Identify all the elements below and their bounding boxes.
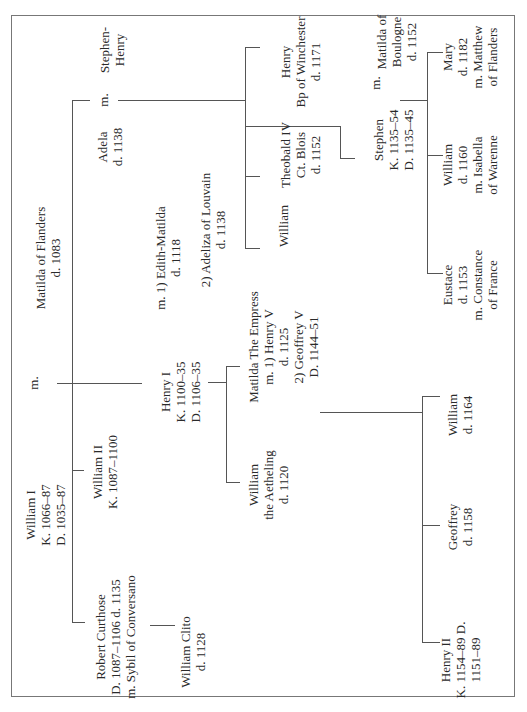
person-detail: d. 1138 [110, 128, 125, 167]
person-name: Geoffrey [445, 504, 460, 551]
person-name: Henry [278, 17, 293, 108]
person-william-son-of-matilda: William d. 1164 [445, 394, 475, 436]
person-name: Henry II [438, 622, 453, 699]
adela-marriage-line [118, 100, 245, 101]
person-detail: d. 1083 [48, 207, 63, 310]
person-name: Matilda of Flanders [33, 207, 48, 310]
stephen-children-line [427, 52, 428, 274]
person-name: Eustace [440, 250, 455, 321]
person-detail: D. 1144–51 [306, 291, 321, 403]
person-william-the-aetheling: William the Aetheling d. 1120 [246, 450, 291, 520]
person-name: Matilda of [374, 15, 389, 70]
person-detail: D. 1035–87 [53, 484, 68, 545]
stephen-connector-v [340, 126, 341, 158]
person-william-ii: William II K. 1087–1100 [90, 435, 120, 509]
person-detail: d. 1171 [308, 17, 323, 108]
person-detail: K. 1066–87 [38, 484, 53, 545]
person-detail: d. 1120 [276, 450, 291, 520]
person-name: William II [90, 435, 105, 509]
person-detail: Ct. Blois [293, 122, 308, 188]
william-i-marriage-line [57, 383, 142, 384]
person-detail: m. Matthew [470, 26, 485, 89]
marriage-label-stephen: m. [368, 76, 383, 89]
branch-robert [72, 622, 85, 623]
person-adeliza-of-louvain: 2) Adeliza of Louvain d. 1138 [198, 173, 228, 287]
adela-children-line [245, 47, 246, 249]
robert-clito-line [150, 625, 175, 626]
person-detail: of France [485, 250, 500, 321]
marriage-label: m. [368, 76, 383, 89]
stephen-connector-h2 [340, 158, 355, 159]
person-detail: D. 1087–1106 d. 1135 [108, 575, 123, 699]
branch-matilda-empress [226, 366, 240, 367]
person-name: 2) Adeliza of Louvain [198, 173, 213, 287]
person-robert-curthose: Robert Curthose D. 1087–1106 d. 1135 m. … [93, 575, 138, 699]
person-detail: d. 1125 [276, 291, 291, 403]
person-detail: d. 1182 [455, 26, 470, 89]
person-detail: d. 1160 [455, 135, 470, 195]
person-detail: d. 1164 [460, 394, 475, 436]
person-adela: Adela d. 1138 [95, 128, 125, 167]
person-mary: Mary d. 1182 m. Matthew of Flanders [440, 26, 500, 89]
branch-theobald [245, 176, 260, 177]
person-detail: d. 1152 [404, 15, 419, 70]
person-detail: d. 1128 [193, 616, 208, 687]
person-detail: m. 1) Henry V [261, 291, 276, 403]
person-detail: K. 1100–35 [173, 362, 188, 423]
person-detail: d. 1158 [460, 504, 475, 551]
person-detail: Bp of Winchester [293, 17, 308, 108]
person-detail: of Warenne [485, 135, 500, 195]
person-edith-matilda: m. 1) Edith-Matilda d. 1118 [153, 206, 183, 310]
person-name: Henry [112, 27, 127, 73]
stephen-marriage-line [400, 100, 427, 101]
branch-adela [72, 100, 90, 101]
person-detail: K. 1135–54 [386, 110, 401, 171]
person-william-i: William I K. 1066–87 D. 1035–87 [23, 484, 68, 545]
marriage-label-william-i: m. [26, 376, 41, 389]
person-detail: d. 1152 [308, 122, 323, 188]
person-name: Boulogne [389, 15, 404, 70]
person-william-son-of-stephen: William d. 1160 m. Isabella of Warenne [440, 135, 500, 195]
branch-william-matilda [422, 396, 440, 397]
person-detail: K. 1154–89 D. [453, 622, 468, 699]
branch-henry-bp [245, 47, 260, 48]
person-name: Theobald IV [278, 122, 293, 188]
william-i-children-line [72, 100, 73, 623]
person-henry-bp-winchester: Henry Bp of Winchester d. 1171 [278, 17, 323, 108]
person-theobald-iv: Theobald IV Ct. Blois d. 1152 [278, 122, 323, 188]
branch-william-adela [245, 248, 260, 249]
henry-i-children-line [226, 366, 227, 483]
person-detail: m. Sybil of Conversano [123, 575, 138, 699]
marriage-label-adela: m. [96, 93, 111, 106]
person-matilda-of-boulogne: Matilda of Boulogne d. 1152 [374, 15, 419, 70]
person-henry-ii: Henry II K. 1154–89 D. 1151–89 [438, 622, 483, 699]
person-name: William I [23, 484, 38, 545]
branch-geoffrey [422, 525, 440, 526]
person-name: William [440, 135, 455, 195]
person-detail: D. 1106–35 [188, 362, 203, 423]
person-detail: of Flanders [485, 26, 500, 89]
person-stephen: Stephen K. 1135–54 D. 1135–45 [371, 110, 416, 171]
branch-william-aetheling [226, 482, 240, 483]
person-matilda-of-flanders: Matilda of Flanders d. 1083 [33, 207, 63, 310]
person-detail: d. 1153 [455, 250, 470, 321]
person-detail: 2) Geoffrey V [291, 291, 306, 403]
person-name: William Clito [178, 616, 193, 687]
person-detail: D. 1135–45 [401, 110, 416, 171]
person-stephen-henry: Stephen- Henry [97, 27, 127, 73]
person-matilda-the-empress: Matilda The Empress m. 1) Henry V d. 112… [246, 291, 321, 403]
person-geoffrey: Geoffrey d. 1158 [445, 504, 475, 551]
person-eustace: Eustace d. 1153 m. Constance of France [440, 250, 500, 321]
matilda-empress-children-line [422, 396, 423, 643]
person-detail: d. 1138 [213, 173, 228, 287]
person-detail: m. Constance [470, 250, 485, 321]
person-detail: K. 1087–1100 [105, 435, 120, 509]
person-name: m. 1) Edith-Matilda [153, 206, 168, 310]
person-henry-i: Henry I K. 1100–35 D. 1106–35 [158, 362, 203, 423]
person-name: William [246, 450, 261, 520]
person-name: Henry I [158, 362, 173, 423]
henry-i-children-stem [208, 382, 226, 383]
person-name: Mary [440, 26, 455, 89]
person-william-son-of-adela: William [276, 205, 291, 247]
person-william-clito: William Clito d. 1128 [178, 616, 208, 687]
